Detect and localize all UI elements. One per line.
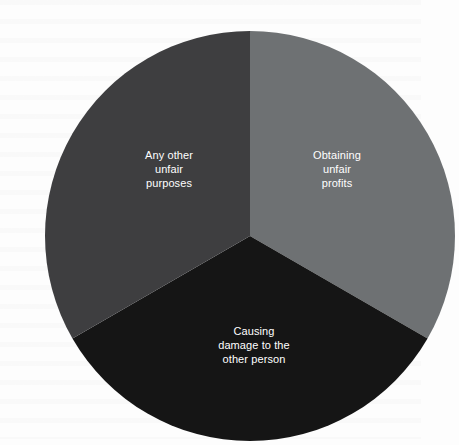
pie-chart: Obtaining unfair profits Causing damage … bbox=[40, 16, 459, 445]
pie-chart-svg bbox=[40, 16, 459, 445]
